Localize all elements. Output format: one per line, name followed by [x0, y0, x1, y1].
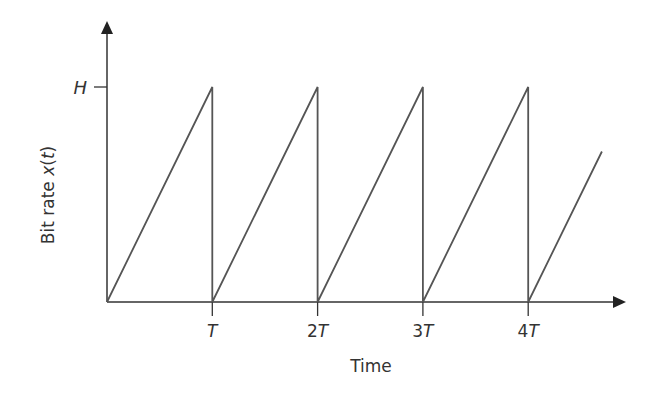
x-tick-label: T	[207, 321, 219, 341]
y-tick-label-h: H	[73, 77, 87, 98]
y-axis-title: Bit rate x(t)	[38, 146, 58, 244]
chart-canvas: T2T3T4T H Time Bit rate x(t)	[0, 0, 655, 393]
x-axis-title: Time	[349, 356, 392, 376]
x-tick-label: 4T	[518, 321, 541, 341]
x-tick-label: 3T	[412, 321, 435, 341]
x-ticks: T2T3T4T	[207, 302, 540, 341]
sawtooth-bitrate-chart: T2T3T4T H Time Bit rate x(t)	[0, 0, 655, 393]
y-tick-labels: H	[73, 77, 87, 98]
sawtooth-series-line	[107, 87, 602, 302]
x-axis-arrow-icon	[613, 296, 626, 308]
x-tick-label: 2T	[307, 321, 330, 341]
y-axis-arrow-icon	[101, 21, 113, 34]
